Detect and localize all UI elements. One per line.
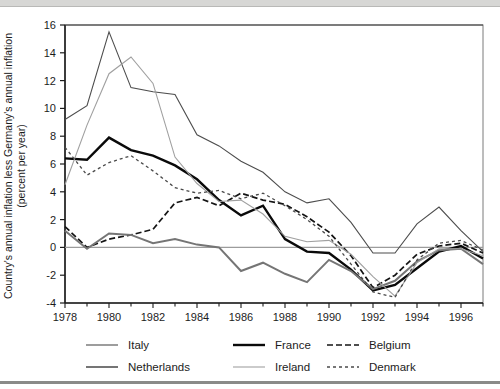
legend-item-netherlands: Netherlands xyxy=(85,361,190,373)
y-tick-label: 4 xyxy=(50,186,56,198)
x-tick-label: 1988 xyxy=(273,311,297,323)
y-tick-label: -4 xyxy=(46,297,56,309)
series-line-netherlands xyxy=(65,231,483,289)
legend-line-sample xyxy=(232,340,266,350)
y-axis-title-line1: Country's annual inflation less Germany'… xyxy=(2,33,14,299)
x-tick-label: 1996 xyxy=(449,311,473,323)
series-line-italy xyxy=(65,32,483,253)
series-lines xyxy=(65,32,483,298)
y-tick-label: 6 xyxy=(50,158,56,170)
x-tick-label: 1990 xyxy=(317,311,341,323)
y-axis-title-line2: (percent per year) xyxy=(15,124,27,207)
x-tick-label: 1992 xyxy=(361,311,385,323)
series-line-ireland xyxy=(65,57,483,296)
legend-label: France xyxy=(275,339,311,351)
y-tick-label: -2 xyxy=(46,269,56,281)
plot-frame xyxy=(65,25,483,303)
legend-item-ireland: Ireland xyxy=(232,361,310,373)
legend-label: Netherlands xyxy=(128,361,190,373)
legend-item-italy: Italy xyxy=(85,339,149,351)
legend-line-sample xyxy=(85,362,119,372)
x-tick-label: 1986 xyxy=(229,311,253,323)
figure-bottom-rule xyxy=(0,381,500,384)
figure-top-rule xyxy=(0,6,500,7)
series-line-belgium xyxy=(65,193,483,288)
x-tick-label: 1994 xyxy=(405,311,429,323)
y-tick-label: 12 xyxy=(44,75,56,87)
x-tick-label: 1980 xyxy=(97,311,121,323)
legend-label: Italy xyxy=(128,339,149,351)
legend-label: Denmark xyxy=(369,361,416,373)
legend-item-denmark: Denmark xyxy=(326,361,416,373)
legend-item-belgium: Belgium xyxy=(326,339,411,351)
chart-legend: ItalyNetherlandsFranceIrelandBelgiumDenm… xyxy=(0,336,500,380)
x-tick-label: 1982 xyxy=(141,311,165,323)
y-tick-label: 0 xyxy=(50,241,56,253)
y-tick-label: 8 xyxy=(50,130,56,142)
legend-line-sample xyxy=(326,340,360,350)
line-chart: Country's annual inflation less Germany'… xyxy=(0,8,500,336)
x-tick-label: 1984 xyxy=(185,311,209,323)
figure-inflation-differentials: Country's annual inflation less Germany'… xyxy=(0,0,500,389)
x-tick-label: 1978 xyxy=(53,311,77,323)
legend-label: Ireland xyxy=(275,361,310,373)
y-tick-label: 14 xyxy=(44,47,56,59)
legend-item-france: France xyxy=(232,339,311,351)
legend-line-sample xyxy=(232,362,266,372)
legend-line-sample xyxy=(85,340,119,350)
axis-tick-labels: -4-2024681012141619781980198219841986198… xyxy=(44,19,473,323)
y-tick-label: 16 xyxy=(44,19,56,31)
legend-label: Belgium xyxy=(369,339,411,351)
y-tick-label: 2 xyxy=(50,214,56,226)
legend-line-sample xyxy=(326,362,360,372)
y-tick-label: 10 xyxy=(44,102,56,114)
